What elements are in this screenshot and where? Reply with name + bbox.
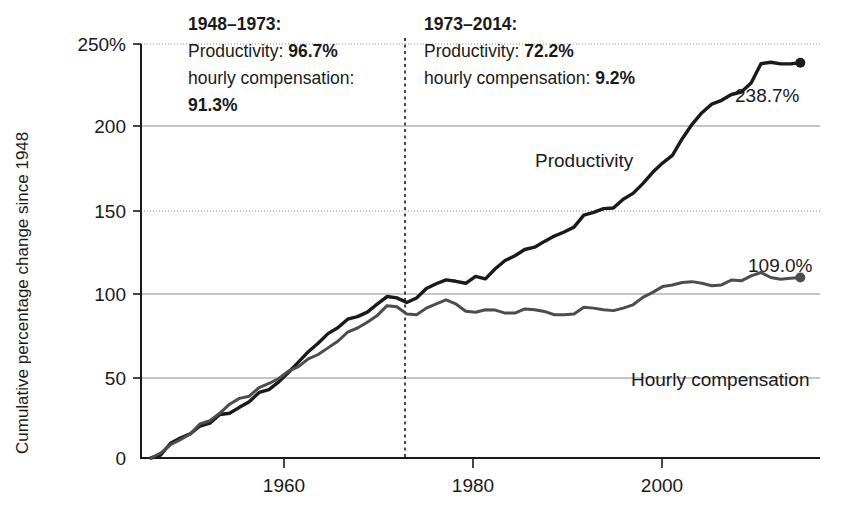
x-axis-ticks [284, 458, 662, 468]
y-tick-label-50: 50 [105, 368, 126, 389]
compensation-end-label: 109.0% [748, 255, 813, 276]
y-tick-label-250: 250% [77, 34, 126, 55]
annotation-1948-1973-line-1: 1948–1973: [188, 14, 281, 34]
y-tick-label-150: 150 [94, 201, 126, 222]
productivity-end-label: 238.7% [735, 85, 800, 106]
annotation-1948-1973-line-3: hourly compensation: [188, 68, 354, 88]
annotation-1948-1973: 1948–1973:Productivity: 96.7%hourly comp… [188, 14, 354, 115]
annotation-1948-1973-line-2: Productivity: 96.7% [188, 41, 338, 61]
annotation-1973-2014-line-2: Productivity: 72.2% [424, 41, 574, 61]
y-axis-ticks [133, 44, 141, 378]
annotation-layer: 1948–1973:Productivity: 96.7%hourly comp… [188, 14, 636, 115]
compensation-series-label: Hourly compensation [631, 369, 809, 390]
x-axis-tick-labels: 1960 1980 2000 [263, 475, 683, 496]
annotation-1973-2014: 1973–2014:Productivity: 72.2%hourly comp… [424, 14, 636, 88]
y-tick-label-0: 0 [115, 448, 126, 469]
y-tick-label-100: 100 [94, 284, 126, 305]
axes [141, 44, 820, 458]
x-tick-label-1960: 1960 [263, 475, 305, 496]
series-line-productivity [151, 62, 800, 458]
y-axis-title: Cumulative percentage change since 1948 [13, 132, 32, 454]
series-line-hourly-compensation [151, 273, 800, 458]
y-axis-tick-labels: 250% 200 150 100 50 0 [77, 34, 126, 469]
annotation-1973-2014-line-3: hourly compensation: 9.2% [424, 68, 636, 88]
y-tick-label-200: 200 [94, 116, 126, 137]
x-tick-label-2000: 2000 [641, 475, 683, 496]
y-axis-title-text: Cumulative percentage change since 1948 [13, 132, 32, 454]
productivity-series-label: Productivity [535, 150, 634, 171]
series-endpoint-productivity [795, 58, 805, 68]
annotation-1973-2014-line-1: 1973–2014: [424, 14, 517, 34]
productivity-pay-gap-chart: Cumulative percentage change since 1948 … [0, 0, 856, 529]
annotation-1948-1973-line-4: 91.3% [188, 95, 238, 115]
chart-container: Cumulative percentage change since 1948 … [0, 0, 856, 529]
x-tick-label-1980: 1980 [452, 475, 494, 496]
axis-lines [141, 44, 820, 458]
gridlines [141, 44, 820, 378]
series-layer [151, 58, 805, 458]
